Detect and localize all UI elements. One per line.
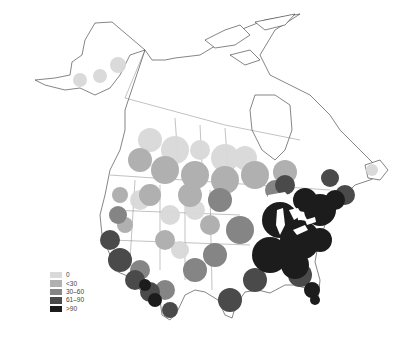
legend-swatch (50, 297, 62, 304)
legend-swatch (50, 289, 62, 296)
legend: 0 <30 30–60 61–90 >90 (50, 271, 84, 313)
legend-item-1: <30 (50, 279, 84, 287)
legend-item-2: 30–60 (50, 288, 84, 296)
legend-item-4: >90 (50, 305, 84, 313)
legend-label: >90 (66, 305, 77, 313)
legend-item-3: 61–90 (50, 296, 84, 304)
legend-swatch (50, 306, 62, 313)
legend-item-0: 0 (50, 271, 84, 279)
legend-swatch (50, 272, 62, 279)
legend-label: 30–60 (66, 288, 84, 296)
legend-label: 61–90 (66, 296, 84, 304)
legend-label: <30 (66, 280, 77, 288)
legend-swatch (50, 280, 62, 287)
legend-label: 0 (66, 271, 70, 279)
